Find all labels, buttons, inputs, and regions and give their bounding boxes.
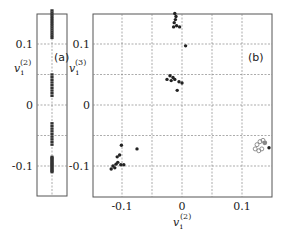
data-point (174, 18, 177, 21)
panel-a: 0.10-0.1vi(2)(a) (12, 9, 70, 196)
data-point (50, 28, 53, 30)
data-point (50, 95, 53, 97)
data-point (184, 44, 187, 47)
data-point (110, 167, 113, 170)
data-point (175, 24, 178, 27)
data-point (50, 125, 53, 127)
x-axis-label-sub: i (180, 222, 183, 231)
y-tick-label: 0 (83, 99, 90, 112)
y-tick-label: 0 (26, 99, 33, 112)
panel-b-frame (93, 14, 272, 197)
data-point (168, 74, 171, 77)
data-point (50, 79, 53, 81)
data-point (50, 133, 53, 135)
data-point (50, 84, 53, 86)
data-point (118, 153, 121, 156)
data-point (50, 138, 53, 140)
data-point (50, 16, 53, 18)
y-axis-label-sup: (2) (20, 58, 31, 67)
data-point (50, 143, 53, 145)
x-axis-label: v (173, 216, 180, 229)
data-point (50, 11, 53, 13)
y-axis-label-sub: i (76, 68, 79, 77)
data-point (50, 22, 53, 24)
panel-a-label: (a) (54, 51, 69, 64)
data-point (174, 15, 177, 18)
data-point (50, 87, 53, 89)
data-point (120, 144, 123, 147)
data-point (50, 9, 53, 11)
y-tick-label: 0.1 (16, 38, 34, 51)
data-point (176, 89, 179, 92)
y-axis-label-sup: (3) (75, 58, 86, 67)
data-point (135, 147, 138, 150)
data-point (50, 26, 53, 28)
data-point (177, 80, 180, 83)
data-point (119, 163, 122, 166)
data-point (50, 18, 53, 20)
data-point (50, 13, 53, 15)
data-point (260, 147, 264, 151)
data-point (50, 20, 53, 22)
data-point (267, 146, 270, 149)
data-point (262, 140, 267, 145)
y-tick-label: -0.1 (12, 160, 33, 173)
data-point (50, 89, 53, 91)
chart-canvas: 0.10-0.1vi(2)(a)0.10-0.1-0.100.1vi(3)vi(… (0, 0, 286, 238)
data-point (173, 78, 176, 81)
data-point (165, 78, 168, 81)
x-axis-label-sup: (2) (180, 212, 191, 221)
panel-b: 0.10-0.1-0.100.1vi(3)vi(2)(b) (69, 12, 272, 231)
panel-b-label: (b) (248, 51, 264, 64)
y-tick-label: 0.1 (73, 38, 91, 51)
data-point (50, 24, 53, 26)
data-point (50, 32, 53, 34)
figure: 0.10-0.1vi(2)(a)0.10-0.1-0.100.1vi(3)vi(… (0, 0, 286, 238)
data-point (50, 37, 53, 39)
data-point (50, 76, 53, 78)
y-tick-label: -0.1 (69, 160, 90, 173)
data-point (50, 35, 53, 37)
data-point (178, 25, 181, 28)
x-tick-label: -0.1 (111, 200, 132, 213)
data-point (116, 161, 119, 164)
data-point (50, 141, 53, 143)
x-tick-label: 0.1 (233, 200, 251, 213)
data-point (50, 127, 53, 129)
data-point (113, 166, 116, 169)
data-point (170, 79, 173, 82)
data-point (122, 163, 125, 166)
data-point (50, 92, 53, 94)
data-point (50, 81, 53, 83)
data-point (50, 135, 53, 137)
data-point (173, 12, 176, 15)
y-axis-label-sub: i (21, 68, 24, 77)
data-point (50, 122, 53, 124)
data-point (50, 30, 53, 32)
data-point (50, 171, 53, 173)
data-point (173, 21, 176, 24)
data-point (50, 73, 53, 75)
data-point (50, 130, 53, 132)
data-point (180, 81, 183, 84)
data-point (172, 25, 175, 28)
